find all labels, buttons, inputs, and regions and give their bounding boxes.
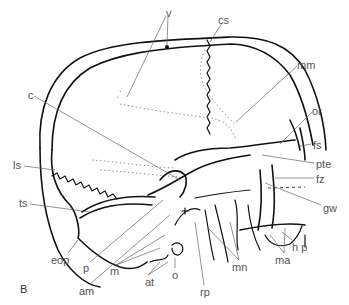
label-fs: fs — [313, 140, 322, 151]
label-mm: mm — [297, 60, 315, 71]
label-ma: ma — [275, 255, 290, 266]
label-mn: mn — [232, 262, 247, 273]
label-p: p — [83, 263, 89, 274]
label-o: o — [172, 270, 178, 281]
label-fz: fz — [316, 174, 325, 185]
skull-diagram: v cs c mm or fs ls pte fz ts gw eop h p … — [0, 0, 349, 305]
label-cs: cs — [218, 15, 229, 26]
label-ts: ts — [19, 198, 28, 209]
label-or: or — [312, 106, 322, 117]
label-eop: eop — [51, 255, 69, 266]
label-gw: gw — [323, 203, 337, 214]
label-at: at — [145, 277, 154, 288]
label-ls: ls — [13, 160, 21, 171]
label-am: am — [79, 286, 94, 297]
label-rp: rp — [200, 287, 210, 298]
label-hp: h p — [292, 242, 307, 253]
panel-label: B — [20, 284, 27, 295]
label-c: c — [28, 90, 34, 101]
label-m: m — [110, 266, 119, 277]
label-pte: pte — [316, 159, 331, 170]
label-v: v — [166, 8, 172, 19]
